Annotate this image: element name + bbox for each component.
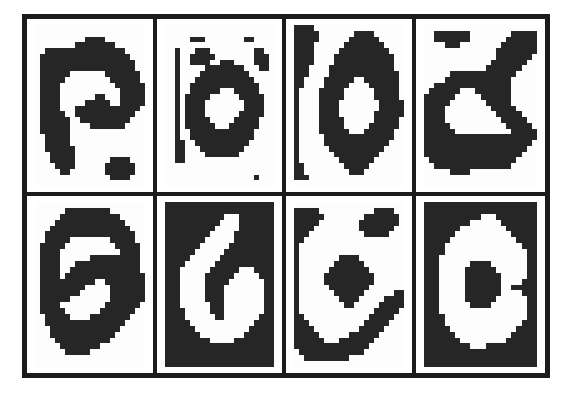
bitmap-canvas-6: [165, 202, 275, 367]
bitmap-cell-8-pad: [416, 196, 546, 373]
figure-root: [0, 0, 572, 393]
bitmap-cell-8[interactable]: [416, 196, 546, 373]
bitmap-cell-4-pad: [416, 19, 546, 192]
bitmap-cell-3-pad: [286, 19, 412, 192]
bitmap-cell-1[interactable]: [27, 19, 157, 196]
bitmap-cell-6[interactable]: [157, 196, 287, 373]
bitmap-cell-7-pad: [286, 196, 412, 373]
bitmap-cell-2-pad: [157, 19, 283, 192]
bitmap-cell-5[interactable]: [27, 196, 157, 373]
bitmap-canvas-7: [294, 202, 404, 367]
sample-bitmap-grid: [22, 14, 550, 378]
bitmap-canvas-5: [35, 202, 145, 367]
bitmap-canvas-3: [294, 25, 404, 186]
bitmap-cell-5-pad: [27, 196, 153, 373]
bitmap-cell-7[interactable]: [286, 196, 416, 373]
bitmap-canvas-1: [35, 25, 145, 186]
bitmap-canvas-8: [424, 202, 538, 367]
bitmap-cell-4[interactable]: [416, 19, 546, 196]
bitmap-cell-6-pad: [157, 196, 283, 373]
bitmap-cell-1-pad: [27, 19, 153, 192]
bitmap-canvas-2: [165, 25, 275, 186]
bitmap-cell-2[interactable]: [157, 19, 287, 196]
bitmap-cell-3[interactable]: [286, 19, 416, 196]
bitmap-canvas-4: [424, 25, 538, 186]
